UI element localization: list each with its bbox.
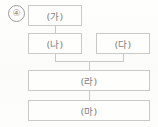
flowchart-node-ma-label: (마) xyxy=(80,104,97,118)
diagram-canvas: ④ (가) (나) (다) (라) (마) xyxy=(0,0,158,127)
flowchart-node-ma: (마) xyxy=(28,100,150,121)
flowchart-node-na: (나) xyxy=(28,33,82,54)
flowchart-node-da-label: (다) xyxy=(114,37,131,51)
connector-ra-to-ma xyxy=(89,91,90,100)
connector-junction-to-ra xyxy=(89,61,90,70)
flowchart-node-ga-label: (가) xyxy=(46,9,63,23)
flowchart-node-na-label: (나) xyxy=(46,37,63,51)
flowchart-node-ra: (라) xyxy=(28,70,150,91)
question-number-marker: ④ xyxy=(8,5,25,22)
flowchart-node-da: (다) xyxy=(96,33,150,54)
connector-ga-to-na xyxy=(55,26,56,33)
flowchart-node-ga: (가) xyxy=(28,5,82,26)
flowchart-node-ra-label: (라) xyxy=(80,74,97,88)
